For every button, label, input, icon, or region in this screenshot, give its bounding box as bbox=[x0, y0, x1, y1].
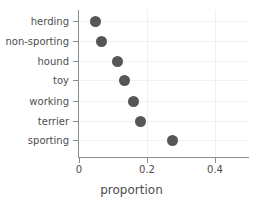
data-point-sporting[interactable] bbox=[167, 135, 178, 146]
data-point-toy[interactable] bbox=[119, 75, 130, 86]
data-point-herding[interactable] bbox=[90, 16, 101, 27]
y-tick-mark bbox=[73, 121, 79, 122]
y-tick-label-hound: hound bbox=[38, 57, 69, 67]
y-axis-spine bbox=[78, 10, 79, 158]
y-tick-label-terrier: terrier bbox=[38, 117, 69, 127]
gridline-horizontal bbox=[79, 80, 249, 81]
gridline-horizontal bbox=[79, 21, 249, 22]
y-tick-label-non-sporting: non-sporting bbox=[5, 37, 69, 47]
x-tick-label-0: 0 bbox=[64, 165, 94, 175]
gridline-vertical bbox=[147, 10, 148, 157]
x-axis-title: proportion bbox=[0, 183, 263, 197]
x-tick-mark bbox=[79, 158, 80, 163]
y-tick-label-working: working bbox=[29, 97, 69, 107]
data-point-non-sporting[interactable] bbox=[96, 36, 107, 47]
gridline-horizontal bbox=[79, 140, 249, 141]
x-axis-spine bbox=[79, 157, 249, 158]
y-tick-label-herding: herding bbox=[31, 17, 69, 27]
y-tick-mark bbox=[73, 80, 79, 81]
x-tick-mark bbox=[215, 158, 216, 163]
x-tick-mark bbox=[147, 158, 148, 163]
data-point-terrier[interactable] bbox=[135, 116, 146, 127]
gridline-horizontal bbox=[79, 121, 249, 122]
y-tick-mark bbox=[73, 21, 79, 22]
y-tick-mark bbox=[73, 41, 79, 42]
data-point-working[interactable] bbox=[128, 96, 139, 107]
x-tick-label-0-2: 0.2 bbox=[132, 165, 162, 175]
gridline-vertical bbox=[215, 10, 216, 157]
y-tick-label-toy: toy bbox=[53, 76, 69, 86]
data-point-hound[interactable] bbox=[112, 56, 123, 67]
x-tick-label-0-4: 0.4 bbox=[200, 165, 230, 175]
dot-plot-chart: herding non-sporting hound toy working t… bbox=[0, 0, 263, 207]
plot-area bbox=[79, 10, 249, 157]
y-tick-label-sporting: sporting bbox=[28, 136, 69, 146]
y-tick-mark bbox=[73, 61, 79, 62]
gridline-horizontal bbox=[79, 101, 249, 102]
y-tick-mark bbox=[73, 140, 79, 141]
gridline-horizontal bbox=[79, 61, 249, 62]
y-tick-mark bbox=[73, 101, 79, 102]
